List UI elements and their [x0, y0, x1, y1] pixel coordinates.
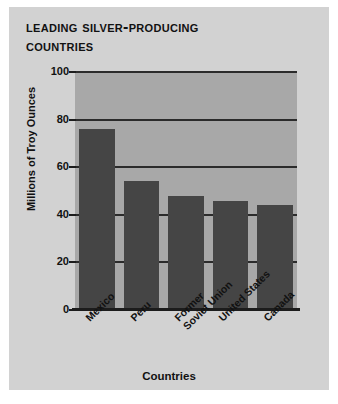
y-tick-label-80: 80: [35, 114, 69, 125]
y-tick-label-60: 60: [35, 161, 69, 172]
y-axis-label: Millions of Troy Ounces: [25, 69, 37, 229]
y-tick-label-100: 100: [35, 66, 69, 77]
y-tick-mark-80: [69, 119, 76, 121]
y-tick-label-40: 40: [35, 209, 69, 220]
y-tick-mark-100: [69, 71, 76, 73]
y-tick-mark-40: [69, 214, 76, 216]
bar: [124, 181, 160, 310]
y-tick-mark-0: [69, 309, 76, 311]
y-tick-mark-20: [69, 261, 76, 263]
y-tick-label-0: 0: [35, 304, 69, 315]
bar: [79, 129, 115, 310]
y-tick-mark-60: [69, 166, 76, 168]
y-tick-label-20: 20: [35, 256, 69, 267]
x-axis-label: Countries: [9, 370, 329, 382]
chart-figure: Leading Silver-ProducingCountries 020406…: [9, 7, 329, 390]
